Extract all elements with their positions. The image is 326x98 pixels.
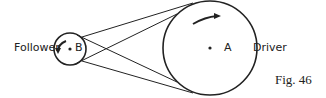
driver-center-dot: [208, 46, 211, 49]
follower-label: Follower: [14, 42, 60, 54]
driver-label: Driver: [253, 42, 287, 54]
follower-center-dot: [68, 47, 71, 50]
driver-arrowhead: [214, 13, 221, 19]
belt-strand-1: [77, 35, 177, 82]
belt-pulley-diagram: Follower B A Driver Fig. 46: [0, 0, 326, 98]
belt-lower-cross: [82, 61, 193, 93]
belt-upper-cross: [82, 3, 193, 37]
figure-caption: Fig. 46: [275, 72, 312, 88]
driver-rotation-arrow-icon: [193, 16, 217, 24]
pulley-b-label: B: [75, 42, 83, 54]
belt-strand-2: [77, 14, 177, 63]
pulley-a-label: A: [224, 42, 232, 54]
